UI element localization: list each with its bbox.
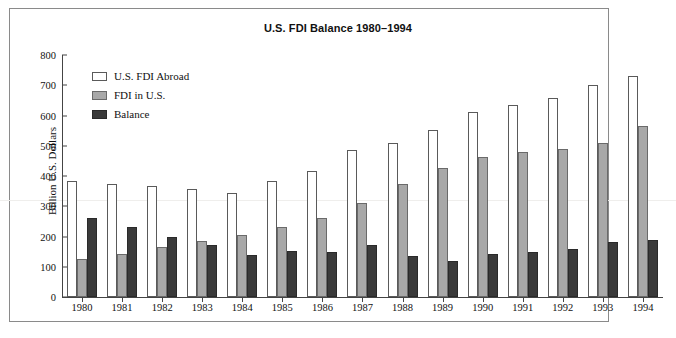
bar-abroad (147, 186, 157, 297)
bar-balance (648, 240, 658, 297)
x-axis-tick-label: 1980 (72, 302, 93, 313)
bar-inus (478, 157, 488, 297)
bar-balance (127, 227, 137, 297)
x-axis-tick-label: 1993 (592, 302, 613, 313)
x-axis-tick-label: 1990 (472, 302, 493, 313)
bar-inus (558, 149, 568, 297)
bar-inus (357, 203, 367, 297)
bar-abroad (428, 130, 438, 297)
y-axis-tick-label: 700 (40, 80, 62, 91)
figure: U.S. FDI Balance 1980–1994 Billion U.S. … (0, 0, 676, 338)
bar-group: 1993 (583, 55, 623, 297)
bar-inus (197, 241, 207, 297)
bar-abroad (267, 181, 277, 297)
bar-group: 1989 (423, 55, 463, 297)
bar-abroad (187, 189, 197, 297)
x-axis-tick-label: 1988 (392, 302, 413, 313)
legend-swatch-balance-icon (92, 110, 107, 119)
bar-inus (438, 168, 448, 297)
bar-abroad (307, 171, 317, 297)
legend-swatch-inus-icon (92, 91, 107, 100)
legend-label-balance: Balance (114, 108, 149, 120)
bar-balance (327, 252, 337, 297)
chart-title: U.S. FDI Balance 1980–1994 (0, 22, 676, 34)
y-axis-tick-label: 100 (40, 261, 62, 272)
bar-abroad (67, 181, 77, 297)
x-axis-tick-label: 1986 (312, 302, 333, 313)
bar-balance (367, 245, 377, 297)
bar-balance (167, 237, 177, 297)
bar-balance (488, 254, 498, 297)
y-axis-tick-label: 600 (40, 110, 62, 121)
bar-group: 1984 (222, 55, 262, 297)
bar-group: 1988 (383, 55, 423, 297)
bar-group: 1991 (503, 55, 543, 297)
bar-balance (448, 261, 458, 297)
legend-item-abroad: U.S. FDI Abroad (92, 70, 189, 82)
bar-abroad (588, 85, 598, 297)
bar-balance (247, 255, 257, 297)
bar-balance (528, 252, 538, 297)
bar-group: 1987 (342, 55, 382, 297)
x-axis-tick-label: 1989 (432, 302, 453, 313)
y-axis-tick-label: 400 (40, 171, 62, 182)
bar-group: 1986 (302, 55, 342, 297)
bar-abroad (347, 150, 357, 297)
bar-inus (277, 227, 287, 297)
x-axis-tick-label: 1981 (112, 302, 133, 313)
y-axis-tick-label: 300 (40, 201, 62, 212)
legend-label-inus: FDI in U.S. (114, 89, 165, 101)
x-axis-tick-label: 1985 (272, 302, 293, 313)
bar-balance (287, 251, 297, 297)
legend-item-balance: Balance (92, 108, 189, 120)
bar-abroad (548, 98, 558, 297)
x-axis-tick-label: 1994 (632, 302, 653, 313)
bar-group: 1990 (463, 55, 503, 297)
y-axis-tick-label: 500 (40, 140, 62, 151)
legend-item-inus: FDI in U.S. (92, 89, 189, 101)
bar-balance (608, 242, 618, 297)
bar-abroad (107, 184, 117, 297)
x-axis-tick-label: 1984 (232, 302, 253, 313)
x-axis-tick-label: 1982 (152, 302, 173, 313)
bar-abroad (227, 193, 237, 297)
bar-group: 1992 (543, 55, 583, 297)
bar-inus (398, 184, 408, 297)
bar-balance (408, 256, 418, 297)
bar-inus (77, 259, 87, 297)
bar-balance (568, 249, 578, 297)
bar-inus (117, 254, 127, 297)
bar-inus (237, 235, 247, 297)
bar-inus (598, 143, 608, 297)
y-axis-tick-label: 0 (51, 292, 62, 303)
chart-legend: U.S. FDI Abroad FDI in U.S. Balance (92, 70, 189, 120)
bar-group: 1994 (623, 55, 663, 297)
y-axis-tick-label: 800 (40, 50, 62, 61)
bar-inus (638, 126, 648, 297)
bar-balance (207, 245, 217, 297)
x-axis-tick-label: 1987 (352, 302, 373, 313)
x-axis-tick-label: 1983 (192, 302, 213, 313)
bar-abroad (508, 105, 518, 297)
bar-inus (157, 247, 167, 297)
bar-balance (87, 218, 97, 297)
bar-inus (317, 218, 327, 297)
bar-abroad (628, 76, 638, 297)
bar-group: 1985 (262, 55, 302, 297)
legend-swatch-abroad-icon (92, 72, 107, 81)
y-axis-tick-label: 200 (40, 231, 62, 242)
x-axis-tick-label: 1991 (512, 302, 533, 313)
bar-abroad (468, 112, 478, 297)
legend-label-abroad: U.S. FDI Abroad (114, 70, 189, 82)
x-axis-tick-label: 1992 (552, 302, 573, 313)
bar-inus (518, 152, 528, 297)
bar-abroad (388, 143, 398, 297)
